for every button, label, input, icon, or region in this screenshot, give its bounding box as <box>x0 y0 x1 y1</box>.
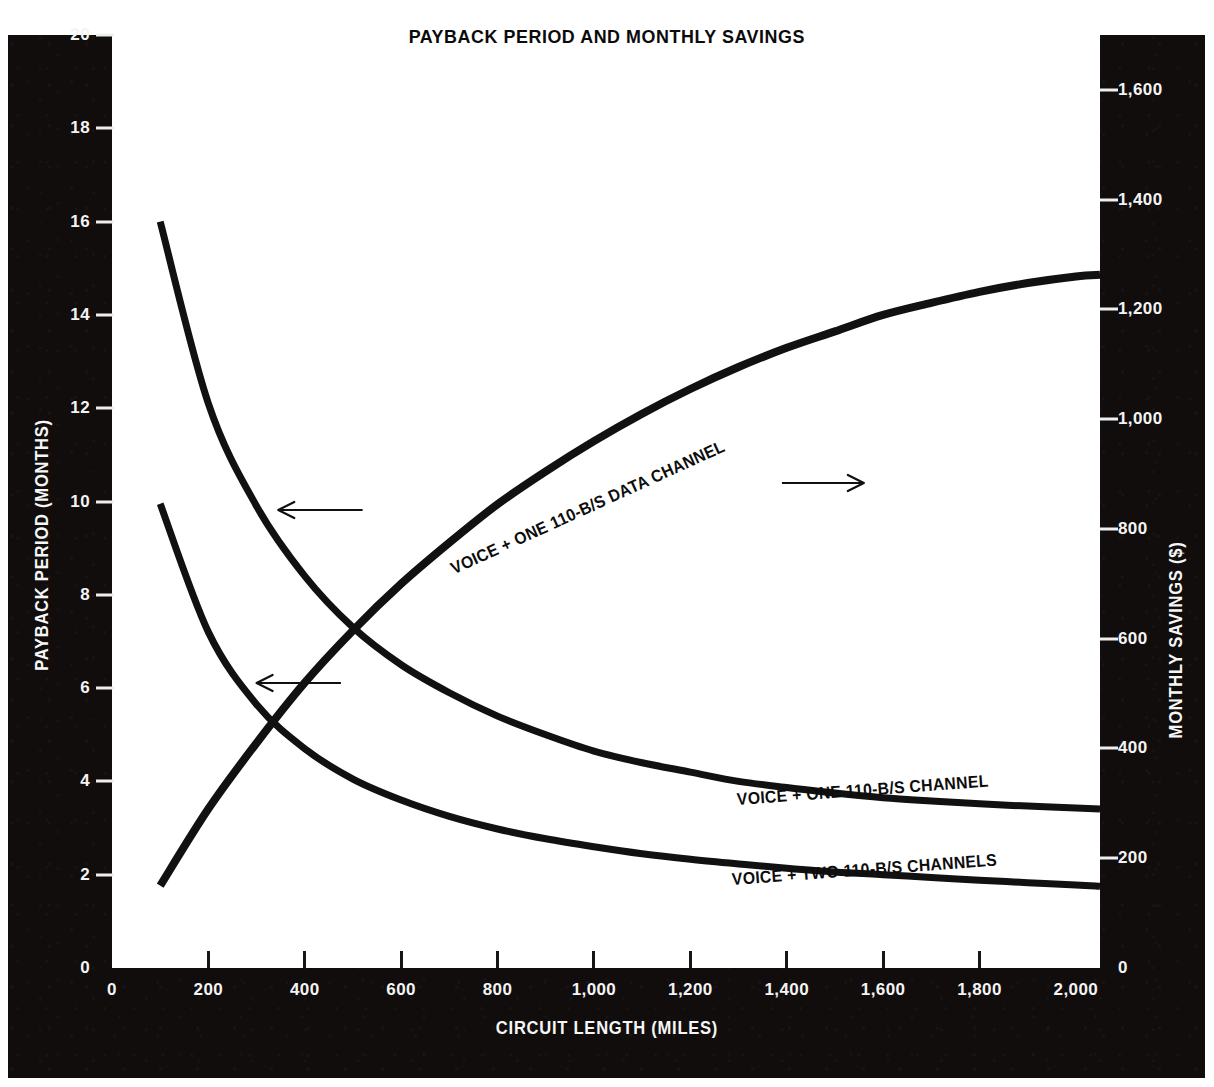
x-tick-label: 200 <box>194 980 224 1000</box>
y-left-tick-mark <box>96 220 114 223</box>
x-tick-label: 1,600 <box>861 980 906 1000</box>
x-tick-label: 1,800 <box>957 980 1002 1000</box>
x-tick-label: 400 <box>290 980 320 1000</box>
y-left-tick-mark <box>96 873 114 876</box>
x-tick-mark <box>689 951 692 968</box>
x-tick-label: 2,000 <box>1054 980 1099 1000</box>
right-arrow-icon <box>782 475 864 491</box>
y-left-tick-label: 8 <box>80 585 90 605</box>
y-left-tick-label: 20 <box>70 25 90 45</box>
y-left-tick-label: 16 <box>70 212 90 232</box>
x-tick-label: 1,000 <box>572 980 617 1000</box>
y-right-tick-label: 1,600 <box>1118 80 1163 100</box>
curve-series-0 <box>160 275 1100 886</box>
y-left-tick-label: 10 <box>70 492 90 512</box>
y-right-tick-mark <box>1100 747 1118 750</box>
y-axis-left-title: PAYBACK PERIOD (MONTHS) <box>32 419 53 671</box>
y-left-tick-mark <box>96 687 114 690</box>
y-left-tick-mark <box>96 500 114 503</box>
y-left-tick-label: 12 <box>70 398 90 418</box>
x-tick-mark <box>207 951 210 968</box>
y-left-tick-label: 6 <box>80 678 90 698</box>
x-tick-label: 1,400 <box>764 980 809 1000</box>
y-left-tick-mark <box>96 780 114 783</box>
y-left-tick-mark <box>96 127 114 130</box>
x-tick-mark <box>592 951 595 968</box>
y-right-tick-label: 1,400 <box>1118 190 1163 210</box>
chart-figure: VOICE + ONE 110-B/S DATA CHANNEL VOICE +… <box>0 0 1214 1087</box>
curve-series-2 <box>160 504 1100 887</box>
y-right-tick-mark <box>1100 308 1118 311</box>
y-left-tick-label: 14 <box>70 305 90 325</box>
y-axis-right-title: MONTHLY SAVINGS ($) <box>1166 542 1187 739</box>
x-tick-mark <box>978 951 981 968</box>
y-right-tick-label: 1,000 <box>1118 409 1163 429</box>
y-left-tick-label: 0 <box>80 958 90 978</box>
y-right-tick-mark <box>1100 418 1118 421</box>
y-right-tick-mark <box>1100 88 1118 91</box>
y-left-tick-mark <box>96 34 114 37</box>
y-left-tick-mark <box>96 407 114 410</box>
y-right-tick-label: 800 <box>1118 519 1148 539</box>
arrow-group <box>257 475 864 691</box>
y-right-tick-mark <box>1100 198 1118 201</box>
x-tick-mark <box>303 951 306 968</box>
x-tick-label: 800 <box>483 980 513 1000</box>
x-tick-mark <box>496 951 499 968</box>
curve-series-1 <box>160 222 1100 809</box>
x-tick-mark <box>785 951 788 968</box>
y-left-tick-mark <box>96 593 114 596</box>
x-tick-label: 600 <box>386 980 416 1000</box>
plot-area: VOICE + ONE 110-B/S DATA CHANNEL VOICE +… <box>112 35 1100 968</box>
y-right-tick-label: 400 <box>1118 738 1148 758</box>
y-right-tick-label: 1,200 <box>1118 299 1163 319</box>
x-tick-label: 1,200 <box>668 980 713 1000</box>
y-left-tick-label: 4 <box>80 771 90 791</box>
y-right-tick-mark <box>1100 637 1118 640</box>
left-arrow-icon-upper <box>278 502 362 518</box>
y-left-tick-mark <box>96 313 114 316</box>
y-right-tick-label: 600 <box>1118 629 1148 649</box>
x-tick-label: 0 <box>107 980 117 1000</box>
y-right-tick-label: 0 <box>1118 958 1128 978</box>
y-right-tick-mark <box>1100 857 1118 860</box>
x-tick-mark <box>882 951 885 968</box>
y-right-tick-mark <box>1100 527 1118 530</box>
x-tick-mark <box>400 951 403 968</box>
y-left-tick-label: 18 <box>70 118 90 138</box>
y-right-tick-label: 200 <box>1118 848 1148 868</box>
x-axis-title: CIRCUIT LENGTH (MILES) <box>496 1018 718 1039</box>
y-left-tick-label: 2 <box>80 865 90 885</box>
